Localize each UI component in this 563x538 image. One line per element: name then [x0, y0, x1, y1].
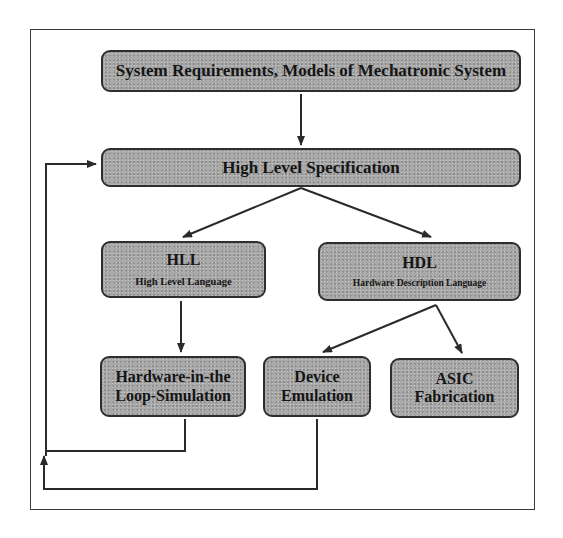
- node-label-line1: Device: [294, 368, 339, 386]
- arrow-spec-to-hdl: [301, 188, 431, 237]
- node-high-level-specification: High Level Specification: [101, 148, 521, 187]
- feedback-hil: [46, 419, 185, 451]
- node-asic-fabrication: ASIC Fabrication: [390, 358, 519, 418]
- node-label-line2: Fabrication: [415, 388, 495, 406]
- node-label-line2: Loop-Simulation: [115, 387, 231, 405]
- feedback-emulation: [44, 419, 317, 489]
- node-hardware-in-the-loop: Hardware-in-the Loop-Simulation: [100, 356, 246, 417]
- node-label-line1: ASIC: [435, 370, 473, 388]
- node-label: System Requirements, Models of Mechatron…: [116, 61, 506, 81]
- node-label: HLL: [167, 251, 201, 269]
- node-system-requirements: System Requirements, Models of Mechatron…: [101, 50, 521, 92]
- node-hdl: HDL Hardware Description Language: [318, 242, 521, 301]
- node-hll: HLL High Level Language: [101, 241, 266, 298]
- node-label: High Level Specification: [222, 158, 400, 178]
- arrow-hdl-to-emulation: [323, 305, 436, 352]
- node-sublabel: High Level Language: [135, 276, 231, 288]
- node-label-line1: Hardware-in-the: [115, 368, 230, 386]
- feedback-to-spec: [46, 164, 96, 456]
- node-label: HDL: [402, 254, 437, 272]
- arrow-hdl-to-asic: [436, 305, 462, 353]
- node-sublabel: Hardware Description Language: [353, 278, 486, 289]
- node-label-line2: Emulation: [281, 387, 353, 405]
- arrow-spec-to-hll: [183, 188, 301, 237]
- node-device-emulation: Device Emulation: [263, 356, 371, 417]
